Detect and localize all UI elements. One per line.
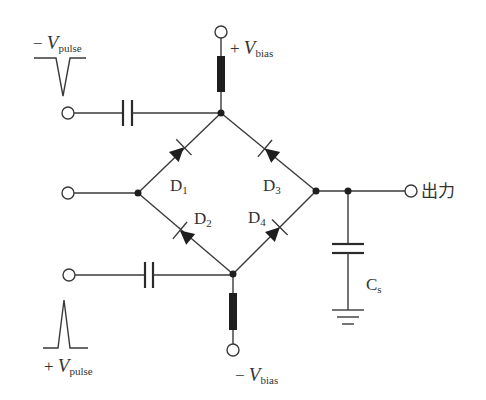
d4-label: D4 (248, 209, 266, 228)
negative-bias-label: − Vbias (235, 365, 278, 386)
negative-bias-terminal[interactable] (227, 344, 239, 356)
label-subscript: bias (260, 374, 278, 386)
ground-icon (332, 310, 364, 324)
bias-resistor-bottom (229, 293, 237, 330)
positive-pulse-waveform-icon (43, 300, 88, 348)
positive-pulse-label: + Vpulse (44, 356, 93, 377)
label-symbol: V (47, 32, 59, 53)
negative-pulse-terminal[interactable] (62, 107, 74, 119)
label-symbol: D (263, 176, 275, 195)
label-subscript: 1 (182, 184, 188, 196)
label-sign: − (33, 34, 43, 53)
output-label: 出力 (421, 183, 455, 200)
label-subscript: pulse (58, 42, 81, 54)
cs-label: Cs (366, 276, 382, 295)
label-symbol: C (366, 275, 377, 294)
label-sign: − (235, 366, 245, 385)
negative-pulse-input-line (74, 100, 221, 126)
junction-right (313, 188, 320, 195)
d3-label: D3 (263, 177, 281, 196)
positive-bias-label: + Vbias (230, 38, 273, 59)
negative-bias-branch (229, 275, 237, 344)
diode-d1-icon (166, 139, 191, 165)
bias-resistor-top (217, 56, 225, 92)
junction-top (218, 110, 225, 117)
label-subscript: s (377, 283, 381, 295)
diode-d3-icon (258, 140, 283, 166)
label-symbol: D (194, 209, 206, 228)
positive-bias-terminal[interactable] (215, 26, 227, 38)
label-sign: + (44, 357, 54, 376)
positive-pulse-input-line (75, 262, 233, 288)
d1-label: D1 (170, 177, 188, 196)
label-subscript: bias (255, 47, 273, 59)
junction-left (135, 190, 142, 197)
label-subscript: 2 (206, 217, 212, 229)
positive-bias-branch (217, 38, 225, 113)
label-subscript: 3 (275, 184, 281, 196)
hold-capacitor-cs (332, 191, 364, 310)
d2-label: D2 (194, 210, 212, 229)
label-symbol: V (244, 37, 256, 58)
positive-pulse-terminal[interactable] (63, 269, 75, 281)
negative-pulse-label: − Vpulse (33, 33, 82, 54)
signal-input-terminal[interactable] (62, 187, 74, 199)
label-symbol: V (249, 364, 261, 385)
label-symbol: V (58, 355, 70, 376)
label-subscript: 4 (260, 216, 266, 228)
label-symbol: D (248, 208, 260, 227)
label-symbol: D (170, 176, 182, 195)
label-subscript: pulse (69, 365, 92, 377)
output-label-text: 出力 (421, 182, 455, 201)
junction-bottom (230, 271, 237, 278)
circuit-diagram (0, 0, 486, 400)
negative-pulse-waveform-icon (34, 58, 86, 96)
label-sign: + (230, 39, 240, 58)
junction-output (345, 188, 352, 195)
output-terminal[interactable] (405, 185, 417, 197)
diode-bridge (138, 113, 316, 274)
